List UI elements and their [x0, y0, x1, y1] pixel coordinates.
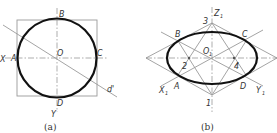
label-3: 3 [203, 17, 208, 26]
label-o: O [57, 49, 63, 58]
center-point-4 [233, 57, 236, 60]
label-d-prime: d' [107, 85, 114, 94]
label-c: C [242, 30, 248, 39]
label-a: A [173, 82, 179, 91]
label-b: B [175, 30, 181, 39]
panel-a: B A X O C D Y d' (a) [0, 8, 117, 132]
label-d: D [240, 82, 246, 91]
label-o1-sub: 1 [209, 51, 212, 57]
label-b: B [59, 10, 65, 19]
label-x1: X [158, 86, 165, 95]
label-y1-sub: 1 [262, 90, 265, 96]
label-z1: Z [213, 9, 220, 18]
center-point-2 [188, 57, 191, 60]
caption-a: (a) [44, 122, 56, 132]
panel-b: Z 1 3 B C O 1 2 4 A D X 1 Y 1 1 (b) [146, 7, 277, 132]
label-a: A [10, 54, 16, 63]
label-1: 1 [206, 99, 211, 108]
label-4: 4 [234, 62, 239, 71]
diagonal-line [3, 25, 117, 97]
label-c: C [97, 49, 103, 58]
figure-canvas: B A X O C D Y d' (a) Z 1 3 B C O 1 [0, 0, 277, 133]
label-y: Y [51, 110, 57, 119]
label-z1-sub: 1 [220, 13, 223, 19]
label-d: D [57, 99, 63, 108]
label-x: X [0, 55, 6, 64]
caption-b: (b) [201, 122, 214, 132]
label-2: 2 [182, 62, 187, 71]
label-x1-sub: 1 [165, 90, 168, 96]
